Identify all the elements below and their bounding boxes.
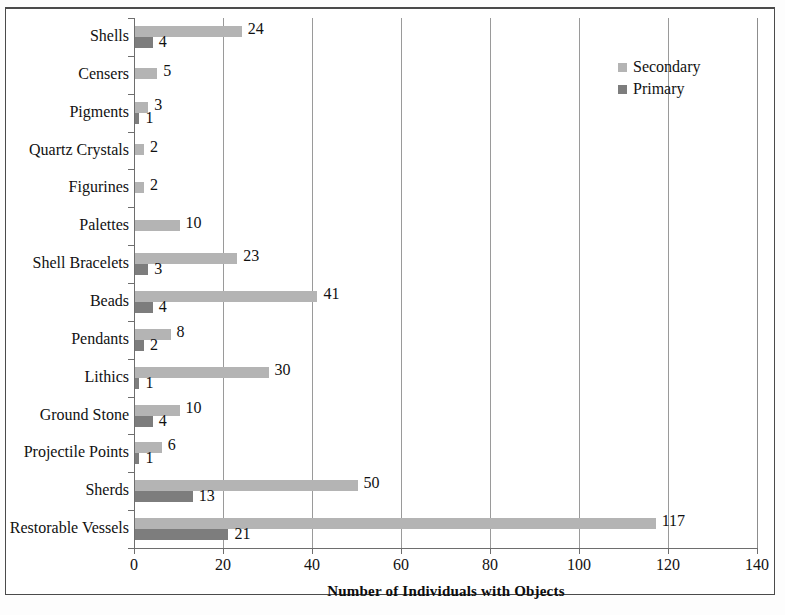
bar-value-secondary: 23 bbox=[243, 247, 259, 265]
category-label-pigments: Pigments bbox=[0, 103, 129, 121]
y-tick-6 bbox=[128, 245, 134, 246]
bar-value-secondary: 50 bbox=[364, 474, 380, 492]
y-tick-12 bbox=[128, 472, 134, 473]
gridline-140 bbox=[757, 18, 758, 548]
bar-primary[interactable] bbox=[135, 416, 153, 427]
category-label-shells: Shells bbox=[0, 27, 129, 45]
category-label-projectile-points: Projectile Points bbox=[0, 443, 129, 461]
y-tick-1 bbox=[128, 56, 134, 57]
category-label-restorable-vessels: Restorable Vessels bbox=[0, 519, 129, 537]
legend-item-primary[interactable]: Primary bbox=[618, 78, 701, 100]
gridline-40 bbox=[312, 18, 313, 548]
bar-value-primary: 1 bbox=[145, 109, 153, 127]
x-tick-0 bbox=[134, 549, 135, 554]
gridline-60 bbox=[401, 18, 402, 548]
bar-secondary[interactable] bbox=[135, 367, 269, 378]
bar-primary[interactable] bbox=[135, 264, 148, 275]
y-tick-4 bbox=[128, 169, 134, 170]
x-tick-80 bbox=[490, 549, 491, 554]
category-label-pendants: Pendants bbox=[0, 330, 129, 348]
y-tick-8 bbox=[128, 321, 134, 322]
category-label-shell-bracelets: Shell Bracelets bbox=[0, 254, 129, 272]
bar-value-primary: 4 bbox=[159, 298, 167, 316]
y-tick-5 bbox=[128, 207, 134, 208]
legend-label-secondary: Secondary bbox=[633, 58, 701, 76]
y-tick-3 bbox=[128, 132, 134, 133]
x-tick-20 bbox=[223, 549, 224, 554]
figure-container: 020406080100120140 Shells244Censers5Pigm… bbox=[0, 0, 785, 615]
gridline-20 bbox=[223, 18, 224, 548]
legend-item-secondary[interactable]: Secondary bbox=[618, 56, 701, 78]
x-tick-label-0: 0 bbox=[104, 556, 164, 574]
y-tick-10 bbox=[128, 397, 134, 398]
bar-secondary[interactable] bbox=[135, 405, 180, 416]
y-tick-7 bbox=[128, 283, 134, 284]
bar-secondary[interactable] bbox=[135, 253, 237, 264]
x-tick-140 bbox=[757, 549, 758, 554]
bar-value-secondary: 2 bbox=[150, 176, 158, 194]
bar-secondary[interactable] bbox=[135, 518, 656, 529]
bar-value-secondary: 6 bbox=[168, 436, 176, 454]
x-tick-label-140: 140 bbox=[727, 556, 785, 574]
bar-value-primary: 4 bbox=[159, 33, 167, 51]
bar-secondary[interactable] bbox=[135, 480, 358, 491]
bar-secondary[interactable] bbox=[135, 68, 157, 79]
bar-value-secondary: 117 bbox=[662, 512, 685, 530]
x-tick-label-80: 80 bbox=[460, 556, 520, 574]
bar-value-primary: 2 bbox=[150, 336, 158, 354]
bar-primary[interactable] bbox=[135, 529, 228, 540]
x-axis-title: Number of Individuals with Objects bbox=[134, 583, 758, 600]
x-tick-60 bbox=[401, 549, 402, 554]
y-tick-2 bbox=[128, 94, 134, 95]
bar-value-primary: 4 bbox=[159, 412, 167, 430]
bar-value-secondary: 10 bbox=[186, 214, 202, 232]
bar-value-primary: 21 bbox=[234, 525, 250, 543]
category-label-sherds: Sherds bbox=[0, 481, 129, 499]
bar-value-primary: 3 bbox=[154, 260, 162, 278]
legend-swatch-primary-icon bbox=[618, 85, 627, 94]
bar-primary[interactable] bbox=[135, 453, 139, 464]
gridline-100 bbox=[579, 18, 580, 548]
bar-secondary[interactable] bbox=[135, 182, 144, 193]
bar-value-secondary: 3 bbox=[154, 96, 162, 114]
bar-value-secondary: 24 bbox=[248, 20, 264, 38]
bar-value-secondary: 8 bbox=[177, 323, 185, 341]
bar-primary[interactable] bbox=[135, 113, 139, 124]
bar-value-secondary: 10 bbox=[186, 399, 202, 417]
bar-secondary[interactable] bbox=[135, 26, 242, 37]
bar-secondary[interactable] bbox=[135, 144, 144, 155]
y-tick-13 bbox=[128, 510, 134, 511]
bar-primary[interactable] bbox=[135, 37, 153, 48]
category-label-censers: Censers bbox=[0, 65, 129, 83]
bar-value-primary: 1 bbox=[145, 374, 153, 392]
bar-value-secondary: 41 bbox=[323, 285, 339, 303]
category-label-quartz-crystals: Quartz Crystals bbox=[0, 141, 129, 159]
x-tick-label-60: 60 bbox=[371, 556, 431, 574]
y-axis-line bbox=[134, 18, 135, 549]
bar-value-primary: 1 bbox=[145, 449, 153, 467]
y-tick-11 bbox=[128, 434, 134, 435]
bar-primary[interactable] bbox=[135, 491, 193, 502]
chart-legend: Secondary Primary bbox=[618, 56, 701, 100]
category-label-beads: Beads bbox=[0, 292, 129, 310]
bar-primary[interactable] bbox=[135, 378, 139, 389]
legend-label-primary: Primary bbox=[633, 80, 685, 98]
bar-primary[interactable] bbox=[135, 340, 144, 351]
bar-value-secondary: 5 bbox=[163, 62, 171, 80]
x-axis-line bbox=[134, 548, 758, 549]
bar-value-secondary: 30 bbox=[275, 361, 291, 379]
x-tick-label-120: 120 bbox=[638, 556, 698, 574]
category-label-palettes: Palettes bbox=[0, 216, 129, 234]
x-tick-40 bbox=[312, 549, 313, 554]
category-label-ground-stone: Ground Stone bbox=[0, 406, 129, 424]
bar-value-primary: 13 bbox=[199, 487, 215, 505]
category-label-lithics: Lithics bbox=[0, 368, 129, 386]
y-tick-0 bbox=[128, 18, 134, 19]
bar-value-secondary: 2 bbox=[150, 138, 158, 156]
y-tick-9 bbox=[128, 359, 134, 360]
bar-primary[interactable] bbox=[135, 302, 153, 313]
x-tick-label-20: 20 bbox=[193, 556, 253, 574]
gridline-80 bbox=[490, 18, 491, 548]
bar-secondary[interactable] bbox=[135, 220, 180, 231]
x-tick-label-40: 40 bbox=[282, 556, 342, 574]
